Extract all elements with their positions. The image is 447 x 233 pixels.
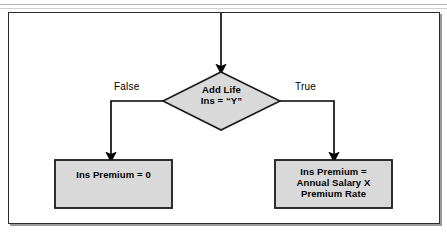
false-branch-box — [55, 160, 172, 208]
edge-label-false: False — [114, 81, 139, 92]
true-connector — [280, 101, 334, 157]
false-branch-box-label: Ins Premium = 0 — [55, 169, 172, 180]
decision-label: Add Life Ins = “Y” — [163, 84, 280, 106]
false-connector — [111, 101, 163, 157]
flowchart-figure: Add Life Ins = “Y” Ins Premium = 0 Ins P… — [0, 0, 447, 233]
edge-label-true: True — [295, 81, 316, 92]
true-branch-box-label: Ins Premium = Annual Salary X Premium Ra… — [275, 166, 392, 200]
